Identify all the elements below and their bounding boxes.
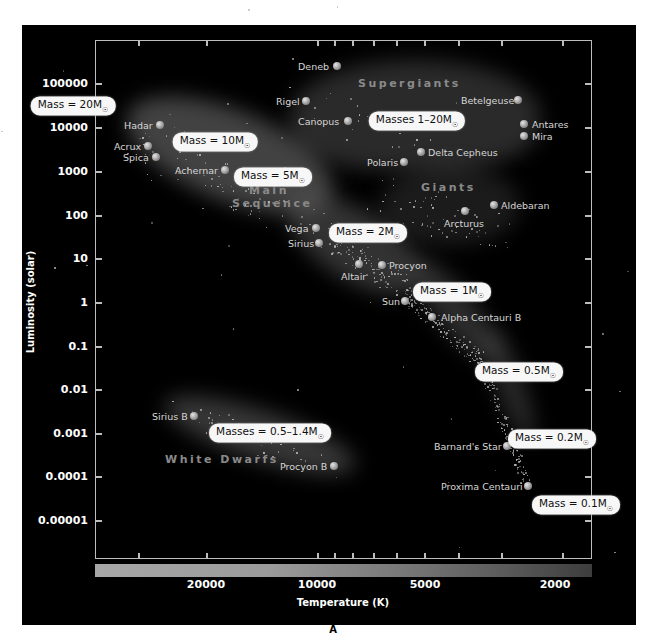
star-label: Aldebaran bbox=[501, 200, 550, 211]
star-label: Acrux bbox=[114, 141, 141, 152]
field-star bbox=[442, 324, 444, 326]
field-star bbox=[515, 464, 517, 466]
field-star bbox=[484, 383, 486, 385]
field-star bbox=[231, 206, 233, 208]
sun-symbol-icon: ☉ bbox=[299, 177, 305, 185]
x-tick-top bbox=[458, 40, 460, 46]
field-star bbox=[506, 424, 508, 426]
field-star bbox=[259, 198, 261, 200]
field-star bbox=[314, 107, 316, 109]
mass-label: Masses 1–20M☉ bbox=[369, 111, 465, 130]
star-label: Betelgeuse bbox=[461, 95, 514, 106]
y-tick-label: 0.0001 bbox=[46, 470, 88, 483]
x-tick-label: 5000 bbox=[410, 578, 441, 591]
y-tick bbox=[95, 389, 102, 391]
mass-label-text: Mass = 0.2M bbox=[515, 431, 583, 443]
mass-label: Mass = 0.1M☉ bbox=[532, 495, 620, 514]
star-label: Procyon bbox=[389, 260, 427, 271]
field-star bbox=[211, 178, 213, 180]
field-star bbox=[340, 253, 342, 255]
field-star bbox=[199, 154, 201, 156]
field-star bbox=[416, 139, 418, 141]
y-tick-right bbox=[585, 127, 592, 129]
mass-label: Masses = 0.5–1.4M☉ bbox=[209, 423, 331, 442]
x-tick-label: 2000 bbox=[540, 578, 571, 591]
field-star bbox=[227, 103, 229, 105]
field-star bbox=[476, 231, 478, 233]
field-star bbox=[398, 146, 400, 148]
star-marker bbox=[315, 239, 323, 247]
star-label: Vega bbox=[285, 223, 308, 234]
field-star bbox=[367, 208, 369, 210]
field-star bbox=[412, 306, 414, 308]
field-star bbox=[520, 460, 522, 462]
field-star bbox=[430, 139, 432, 141]
mass-label-text: Mass = 0.5M bbox=[482, 364, 550, 376]
field-star bbox=[495, 410, 497, 412]
star-marker bbox=[302, 97, 310, 105]
field-star bbox=[272, 202, 274, 204]
field-star bbox=[501, 428, 503, 430]
field-star bbox=[422, 223, 424, 225]
field-star bbox=[177, 179, 179, 181]
star-label: Procyon B bbox=[280, 461, 327, 472]
star-marker bbox=[400, 158, 408, 166]
field-star bbox=[456, 102, 458, 104]
field-star bbox=[323, 213, 325, 215]
mass-label-text: Mass = 2M bbox=[336, 225, 394, 237]
x-tick-top bbox=[317, 40, 319, 46]
field-star bbox=[365, 255, 367, 257]
y-tick-label: 10 bbox=[73, 252, 88, 265]
star-label: Proxima Centauri bbox=[441, 481, 523, 492]
field-star bbox=[521, 455, 523, 457]
star-label: Hadar bbox=[124, 120, 153, 131]
field-star bbox=[392, 146, 394, 148]
x-tick-top bbox=[501, 40, 503, 46]
field-star bbox=[227, 163, 229, 165]
star-label: Sirius bbox=[288, 238, 314, 249]
field-star bbox=[477, 350, 479, 352]
field-star bbox=[225, 163, 227, 165]
star-label: Arcturus bbox=[444, 218, 484, 229]
field-star bbox=[450, 342, 452, 344]
star-label: Mira bbox=[532, 131, 553, 142]
field-star bbox=[301, 216, 303, 218]
star-label: Polaris bbox=[367, 157, 398, 168]
field-star bbox=[382, 201, 384, 203]
field-star bbox=[206, 432, 208, 434]
y-tick-right bbox=[585, 171, 592, 173]
y-tick-label: 0.01 bbox=[61, 383, 88, 396]
field-star bbox=[485, 232, 487, 234]
field-star bbox=[490, 385, 492, 387]
field-star bbox=[409, 287, 411, 289]
mass-label: Mass = 20M☉ bbox=[31, 96, 116, 115]
star-label: Canopus bbox=[298, 116, 339, 127]
mass-label-text: Mass = 20M bbox=[38, 98, 102, 110]
field-star bbox=[313, 209, 315, 211]
star-marker bbox=[378, 261, 386, 269]
field-star bbox=[438, 329, 440, 331]
star-label: Barnard's Star bbox=[434, 441, 502, 452]
y-tick bbox=[95, 83, 102, 85]
field-star bbox=[245, 204, 247, 206]
y-tick bbox=[95, 520, 102, 522]
field-star bbox=[416, 309, 418, 311]
y-tick bbox=[95, 346, 102, 348]
y-tick-right bbox=[585, 302, 592, 304]
mass-label: Mass = 2M☉ bbox=[329, 223, 407, 242]
x-tick-bottom bbox=[334, 553, 336, 559]
star-label: Altair bbox=[341, 271, 366, 282]
field-star bbox=[404, 280, 406, 282]
mass-label: Mass = 10M☉ bbox=[173, 132, 258, 151]
field-star bbox=[432, 326, 434, 328]
field-star bbox=[283, 200, 285, 202]
field-star bbox=[425, 312, 427, 314]
mass-label: Mass = 0.2M☉ bbox=[508, 429, 596, 448]
field-star bbox=[497, 225, 499, 227]
x-tick-label: 10000 bbox=[298, 578, 336, 591]
x-tick-bottom bbox=[138, 553, 140, 559]
field-star bbox=[166, 135, 168, 137]
supergiants-label: Supergiants bbox=[358, 77, 461, 90]
field-star bbox=[451, 418, 453, 420]
field-star bbox=[199, 422, 201, 424]
